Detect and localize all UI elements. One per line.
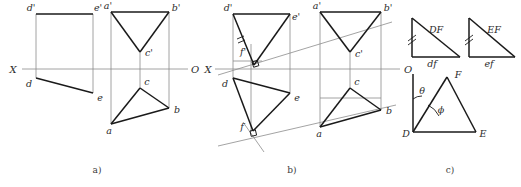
panel-b-label-cprime: c' (355, 48, 363, 59)
panel-b-label-axis-o: O (404, 64, 412, 75)
panel-a-label-a: a (106, 125, 112, 136)
panel-a-edge-a-b (111, 108, 169, 124)
caption-b: b) (287, 165, 296, 175)
technical-drawing: d' e' d e a' b' c' a b c X O (0, 0, 521, 187)
panel-b-perpendicular-marker-line (243, 122, 264, 152)
panel-b-label-c: c (354, 76, 360, 87)
panel-b-label-b: b (386, 105, 392, 116)
panel-b-edge-d-e (233, 78, 290, 93)
panel-b-oblique-lower (218, 105, 396, 146)
panel-b-edge-bprime-cprime (350, 12, 381, 52)
panel-a-edge-bprime-cprime (140, 12, 169, 52)
panel-a-label-bprime: b' (172, 2, 181, 13)
panel-b-label-bprime: b' (384, 2, 393, 13)
panel-b-label-d: d (222, 78, 228, 89)
panel-c-angle-arc-theta (413, 96, 422, 99)
panel-a: d' e' d e a' b' c' a b c X O (8, 0, 199, 136)
panel-b-label-dprime: d' (224, 2, 233, 13)
panel-b-edge-eprime-fprime (254, 14, 290, 65)
panel-a-label-axis-o: O (191, 64, 199, 75)
panel-a-edge-aprime-cprime (111, 12, 140, 52)
caption-c: c) (446, 165, 455, 175)
panel-c-label-DF: DF (428, 24, 444, 35)
caption-a: a) (93, 165, 102, 175)
panel-a-edge-d-e (36, 78, 93, 93)
panel-b-edge-dprime-fprime (233, 14, 254, 65)
panel-a-label-axis-x: X (8, 64, 17, 75)
panel-c-label-phi: ϕ (438, 104, 445, 115)
panel-a-label-d: d (26, 78, 32, 89)
panel-a-label-b: b (174, 104, 180, 115)
panel-c-label-ef: ef (484, 58, 495, 69)
panel-a-label-dprime: d' (27, 2, 36, 13)
panel-b-edge-a-c (320, 88, 350, 127)
panel-c-edge-E-F (447, 77, 476, 132)
panel-b-label-aprime: a' (313, 0, 321, 11)
panel-a-label-cprime: c' (145, 47, 153, 58)
panel-c-label-df: df (427, 58, 438, 69)
panel-c-label-F: F (454, 69, 462, 80)
panel-b-label-e: e (294, 92, 300, 103)
panel-a-label-c: c (144, 76, 150, 87)
panel-b-edge-a-b (320, 110, 381, 127)
panel-a-label-aprime: a' (104, 0, 112, 11)
panel-c: DF df EF ef θ ϕ D E F (401, 18, 515, 139)
panel-b-label-eprime: e' (292, 11, 300, 22)
panel-c-label-E: E (479, 128, 487, 139)
figure-root: d' e' d e a' b' c' a b c X O (0, 0, 521, 187)
panel-a-label-eprime: e' (94, 2, 102, 13)
panel-a-edge-b-c (140, 88, 169, 108)
panel-c-label-EF: EF (486, 24, 501, 35)
panel-b-label-axis-x: X (203, 64, 212, 75)
panel-b-edge-b-c (350, 88, 381, 110)
panel-b-label-fprime: f' (239, 46, 246, 57)
panel-c-label-D: D (401, 128, 410, 139)
panel-c-label-theta: θ (419, 85, 425, 96)
panel-b-edge-aprime-cprime (320, 12, 350, 52)
panel-a-edge-a-c (111, 88, 140, 124)
panel-b-edge-e-f (253, 93, 290, 131)
panel-a-label-e: e (97, 92, 103, 103)
panel-b-label-a: a (316, 128, 322, 139)
panel-b: d' e' f' d e f a' b' c' a b c X O (203, 0, 412, 152)
panel-b-label-f: f (239, 121, 245, 132)
